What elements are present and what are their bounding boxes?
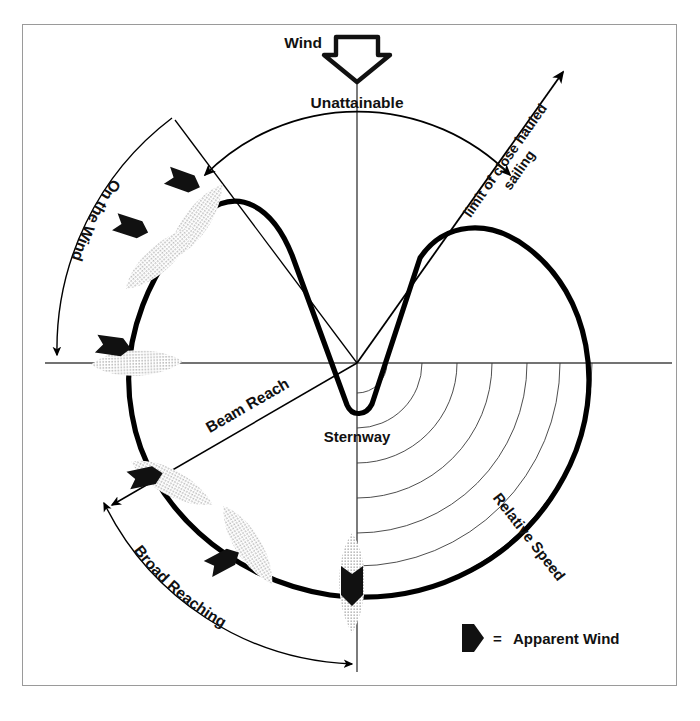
on-the-wind-ray bbox=[175, 120, 357, 363]
on-the-wind-arc bbox=[57, 118, 172, 355]
polar-diagram: Wind Unattainable Sternway limit of clos… bbox=[0, 0, 700, 721]
on-the-wind-label: On the Wind bbox=[68, 176, 124, 263]
svg-text:Relative Speed: Relative Speed bbox=[490, 489, 569, 584]
apparent-wind-arrow-1 bbox=[164, 167, 203, 196]
wind-label: Wind bbox=[284, 34, 322, 51]
speed-ring-3 bbox=[357, 363, 457, 463]
legend-equals: = bbox=[493, 630, 502, 647]
unattainable-label: Unattainable bbox=[310, 94, 403, 111]
figure-canvas: Wind Unattainable Sternway limit of clos… bbox=[0, 0, 700, 721]
legend: = Apparent Wind bbox=[462, 624, 620, 652]
legend-apparent-wind-label: Apparent Wind bbox=[513, 630, 620, 647]
apparent-wind-arrow-2 bbox=[112, 213, 151, 241]
wind-arrow-icon bbox=[324, 37, 390, 82]
apparent-wind-pennant-icon bbox=[462, 624, 484, 652]
relative-speed-label: Relative Speed bbox=[490, 489, 569, 584]
limit-close-hauled-line1: limit of close hauled bbox=[460, 100, 550, 219]
speed-ring-2 bbox=[357, 363, 422, 428]
broad-reaching-label: Broad Reaching bbox=[131, 542, 230, 631]
limit-close-hauled-label: limit of close hauled sailing bbox=[460, 100, 564, 229]
sternway-label: Sternway bbox=[324, 428, 391, 445]
